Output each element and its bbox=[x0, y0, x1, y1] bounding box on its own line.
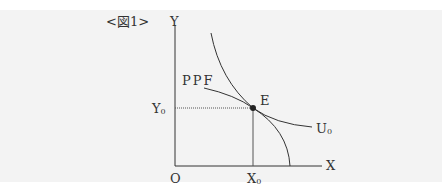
u-sub: 0 bbox=[327, 127, 332, 136]
y0-label: Y0 bbox=[152, 102, 166, 116]
ppf-curve bbox=[204, 88, 290, 166]
u-main: U bbox=[316, 121, 327, 136]
y0-sub: 0 bbox=[161, 107, 166, 116]
x0-sub: 0 bbox=[256, 177, 261, 186]
point-e-label: E bbox=[260, 94, 270, 107]
diagram-canvas bbox=[0, 0, 442, 191]
x-axis-label: X bbox=[326, 159, 335, 172]
x0-label: X0 bbox=[247, 172, 261, 186]
y-axis-label: Y bbox=[170, 15, 179, 28]
indifference-curve-label: U0 bbox=[316, 122, 332, 136]
ppf-label: PPF bbox=[182, 74, 215, 87]
y0-main: Y bbox=[152, 101, 161, 116]
equilibrium-point bbox=[250, 105, 256, 111]
x0-main: X bbox=[247, 171, 256, 186]
figure-caption: <図1> bbox=[106, 15, 149, 28]
origin-label: O bbox=[170, 172, 181, 185]
indifference-curve bbox=[211, 33, 312, 127]
